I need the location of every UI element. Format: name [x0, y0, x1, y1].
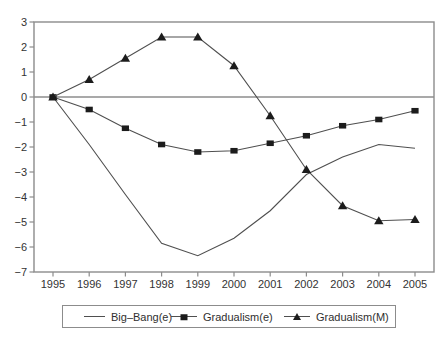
x-tick-label: 1999: [186, 278, 210, 290]
data-point-square: [375, 117, 382, 123]
data-point-square: [194, 149, 201, 155]
legend-line-sample-icon: [284, 316, 310, 317]
y-tick-label: −1: [14, 116, 27, 128]
data-point-triangle: [266, 111, 275, 119]
data-point-square: [339, 123, 346, 129]
y-tick-label: 1: [21, 66, 27, 78]
x-tick-label: 2001: [258, 278, 282, 290]
legend-label-gradualism-e: Gradualism(e): [203, 311, 273, 323]
legend-line-sample-icon: [84, 316, 105, 317]
legend-label-gradualism-m: Gradualism(M): [316, 311, 389, 323]
chart-plot-area: 3210−1−2−3−4−5−6−71995199619971998199920…: [0, 0, 447, 300]
x-tick-label: 1995: [41, 278, 65, 290]
y-tick-label: −6: [14, 241, 27, 253]
y-tick-label: −2: [14, 141, 27, 153]
x-tick-label: 1996: [77, 278, 101, 290]
data-point-square: [303, 133, 310, 139]
x-tick-label: 2000: [222, 278, 246, 290]
y-tick-label: 2: [21, 41, 27, 53]
chart-legend: Big–Bang(e) Gradualism(e) Gradualism(M): [62, 305, 396, 328]
series-line-gradualism-e: [53, 97, 415, 152]
y-tick-label: −5: [14, 216, 27, 228]
y-tick-label: −7: [14, 266, 27, 278]
data-point-square: [411, 108, 418, 114]
legend-label-big-bang-e: Big–Bang(e): [111, 311, 172, 323]
legend-item-gradualism-m: Gradualism(M): [284, 306, 389, 327]
data-point-triangle: [302, 165, 311, 173]
x-tick-label: 1997: [113, 278, 137, 290]
legend-line-sample-icon: [171, 316, 197, 317]
data-point-square: [122, 125, 129, 131]
y-tick-label: 0: [21, 91, 27, 103]
data-point-triangle: [85, 75, 94, 83]
legend-item-big-bang-e: Big–Bang(e): [84, 306, 172, 327]
x-tick-label: 2004: [367, 278, 391, 290]
x-tick-label: 1998: [149, 278, 173, 290]
plot-frame: [34, 22, 434, 272]
y-tick-label: −4: [14, 191, 27, 203]
data-point-triangle: [121, 54, 130, 62]
legend-triangle-marker-icon: [293, 313, 301, 320]
chart-figure: 3210−1−2−3−4−5−6−71995199619971998199920…: [0, 0, 447, 346]
x-tick-label: 2003: [330, 278, 354, 290]
data-point-square: [86, 107, 93, 113]
legend-item-gradualism-e: Gradualism(e): [171, 306, 273, 327]
data-point-square: [230, 148, 237, 154]
data-point-triangle: [410, 215, 419, 223]
data-point-square: [267, 140, 274, 146]
legend-square-marker-icon: [181, 314, 188, 320]
series-line-big-bang-e: [53, 97, 415, 256]
data-point-square: [158, 142, 165, 148]
y-tick-label: 3: [21, 16, 27, 28]
x-tick-label: 2005: [403, 278, 427, 290]
y-tick-label: −3: [14, 166, 27, 178]
x-tick-label: 2002: [294, 278, 318, 290]
